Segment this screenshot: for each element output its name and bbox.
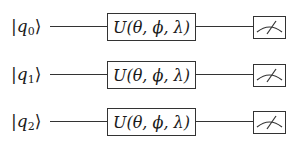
wire-out-0 <box>196 26 253 27</box>
wire-in-1 <box>50 74 107 75</box>
qubit-label-0: |q0⟩ <box>11 15 41 43</box>
meter-icon <box>253 16 286 39</box>
qubit-label-1: |q1⟩ <box>11 63 41 91</box>
qubit-label-2: |q2⟩ <box>11 110 41 138</box>
u-gate-0: U(θ, ϕ, λ) <box>107 13 196 41</box>
u-gate-2: U(θ, ϕ, λ) <box>107 108 196 136</box>
wire-out-1 <box>196 74 253 75</box>
qubit-row-1: |q1⟩ U(θ, ϕ, λ) <box>0 55 299 95</box>
u-gate-1: U(θ, ϕ, λ) <box>107 61 196 89</box>
meter-icon <box>253 64 286 87</box>
wire-in-2 <box>50 121 107 122</box>
wire-out-2 <box>196 121 253 122</box>
wire-in-0 <box>50 26 107 27</box>
qubit-row-2: |q2⟩ U(θ, ϕ, λ) <box>0 102 299 141</box>
qubit-row-0: |q0⟩ U(θ, ϕ, λ) <box>0 7 299 47</box>
meter-icon <box>253 111 286 134</box>
